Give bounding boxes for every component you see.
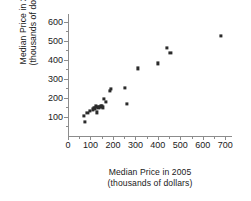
y-tick-label: 500 — [48, 36, 63, 45]
y-tick-major — [64, 98, 68, 99]
y-tick-label: 600 — [48, 17, 63, 26]
y-axis-title: Median Price in 2008 (thousands of dolla… — [14, 0, 44, 88]
y-tick-label: 100 — [48, 112, 63, 121]
y-tick-major — [64, 117, 68, 118]
x-tick-minor — [147, 136, 148, 139]
x-tick-label: 500 — [173, 141, 188, 150]
y-tick-major — [64, 22, 68, 23]
x-tick-minor — [124, 136, 125, 139]
x-axis-title: Median Price in 2005 (thousands of dolla… — [60, 167, 240, 188]
y-tick-minor — [66, 69, 69, 70]
x-tick-label: 600 — [195, 141, 210, 150]
y-tick-label: 300 — [48, 74, 63, 83]
data-point — [124, 87, 127, 90]
x-tick-label: 700 — [218, 141, 233, 150]
x-tick-minor — [214, 136, 215, 139]
y-tick-minor — [66, 50, 69, 51]
data-point — [109, 88, 112, 91]
x-axis-title-line2: (thousands of dollars) — [60, 178, 240, 189]
data-point — [83, 120, 86, 123]
x-tick-label: 0 — [65, 141, 70, 150]
data-point — [169, 51, 172, 54]
data-point — [96, 111, 99, 114]
y-tick-major — [64, 60, 68, 61]
y-tick-minor — [66, 126, 69, 127]
x-tick-label: 400 — [150, 141, 165, 150]
y-tick-minor — [66, 88, 69, 89]
x-tick-label: 300 — [128, 141, 143, 150]
x-tick-minor — [102, 136, 103, 139]
x-axis-title-line1: Median Price in 2005 — [60, 167, 240, 178]
scatter-plot-figure: Median Price in 2008 (thousands of dolla… — [0, 0, 251, 201]
x-tick-minor — [79, 136, 80, 139]
data-point — [101, 106, 104, 109]
data-point — [125, 102, 128, 105]
y-axis-line — [68, 14, 69, 136]
plot-area: 100200300400500600 010020030040050060070… — [68, 14, 232, 136]
y-tick-label: 200 — [48, 93, 63, 102]
x-axis-line — [68, 136, 232, 137]
y-tick-major — [64, 79, 68, 80]
x-tick-minor — [192, 136, 193, 139]
y-tick-label: 400 — [48, 55, 63, 64]
y-axis-title-line2: (thousands of dollars) — [29, 0, 39, 65]
data-point — [136, 67, 139, 70]
y-tick-major — [64, 41, 68, 42]
data-point — [219, 34, 222, 37]
data-point — [165, 47, 168, 50]
data-point — [104, 100, 107, 103]
x-tick-label: 200 — [105, 141, 120, 150]
y-tick-minor — [66, 107, 69, 108]
x-tick-label: 100 — [83, 141, 98, 150]
x-tick-minor — [169, 136, 170, 139]
data-point — [156, 62, 159, 65]
data-point — [82, 114, 85, 117]
y-tick-minor — [66, 31, 69, 32]
